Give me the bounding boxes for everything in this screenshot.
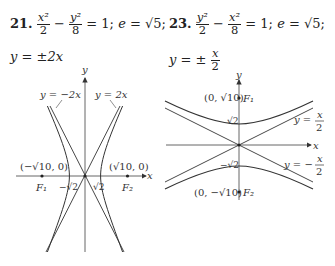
asymptote-neg [50, 106, 124, 252]
origin [237, 143, 240, 146]
svg-text:(0, −√10): (0, −√10) [194, 187, 242, 198]
svg-text:−√2: −√2 [220, 160, 239, 170]
svg-text:−√2: −√2 [59, 182, 78, 192]
svg-text:√2: √2 [227, 116, 238, 126]
svg-text:y = −: y = − [283, 159, 313, 170]
focus-f2 [126, 174, 129, 177]
svg-text:F₂: F₂ [242, 187, 254, 198]
origin [83, 174, 86, 177]
svg-text:(−√10, 0): (−√10, 0) [20, 161, 68, 172]
svg-text:x: x [313, 140, 319, 151]
svg-text:2: 2 [316, 166, 322, 177]
svg-text:F₁: F₁ [35, 182, 47, 193]
svg-text:x: x [317, 109, 323, 120]
hyperbola-graphs: y x y = −2x y = 2x (−√10, 0) (√10, 0) F₁… [0, 0, 335, 266]
svg-text:F₁: F₁ [242, 93, 254, 104]
svg-text:y = 2x: y = 2x [94, 89, 128, 100]
svg-text:(√10, 0): (√10, 0) [109, 161, 149, 172]
svg-text:y =: y = [293, 114, 311, 125]
svg-text:(0, √10): (0, √10) [204, 92, 244, 103]
svg-text:y: y [235, 69, 242, 80]
hyperbola-right-branch [101, 106, 123, 252]
svg-text:x: x [317, 153, 323, 164]
asymptote-pos [46, 106, 120, 252]
hyperbola-left-branch [47, 106, 69, 252]
svg-text:y = −2x: y = −2x [39, 89, 81, 100]
graph-21: y x y = −2x y = 2x (−√10, 0) (√10, 0) F₁… [16, 64, 153, 252]
focus-f1 [40, 174, 43, 177]
svg-text:F₂: F₂ [121, 182, 133, 193]
svg-text:y: y [81, 64, 88, 75]
svg-text:√2: √2 [93, 182, 104, 192]
graph-23: y x (0, √10) F₁ (0, −√10) F₂ √2 −√2 y = … [165, 69, 324, 200]
svg-text:2: 2 [316, 122, 322, 133]
